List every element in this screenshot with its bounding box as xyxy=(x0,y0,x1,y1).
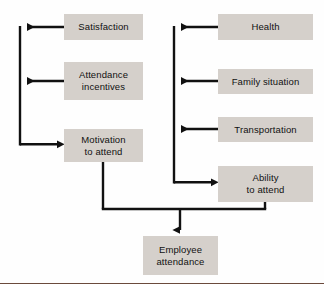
node-health-label: Health xyxy=(251,21,279,33)
page-bottom-margin xyxy=(0,284,324,289)
node-attendance-incentives[interactable]: Attendance incentives xyxy=(64,62,143,100)
node-transportation[interactable]: Transportation xyxy=(218,117,313,142)
node-ability-to-attend-label: Ability to attend xyxy=(247,172,285,196)
node-attendance-incentives-label: Attendance incentives xyxy=(79,69,128,93)
node-family-situation-label: Family situation xyxy=(232,76,300,88)
node-transportation-label: Transportation xyxy=(234,124,296,136)
node-satisfaction-label: Satisfaction xyxy=(78,21,128,33)
node-employee-attendance[interactable]: Employee attendance xyxy=(143,236,218,275)
node-family-situation[interactable]: Family situation xyxy=(218,69,313,94)
node-motivation-to-attend-label: Motivation to attend xyxy=(81,134,125,158)
node-satisfaction[interactable]: Satisfaction xyxy=(64,14,143,40)
node-health[interactable]: Health xyxy=(218,14,313,40)
node-ability-to-attend[interactable]: Ability to attend xyxy=(218,166,313,202)
node-employee-attendance-label: Employee attendance xyxy=(156,244,204,268)
diagram-canvas: Satisfaction Attendance incentives Motiv… xyxy=(0,0,324,289)
node-motivation-to-attend[interactable]: Motivation to attend xyxy=(64,129,143,162)
